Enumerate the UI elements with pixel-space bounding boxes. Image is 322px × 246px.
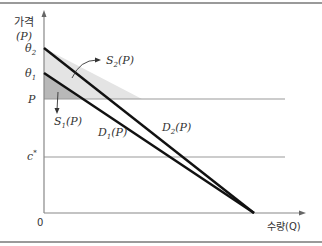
tick-p: P [27,93,36,106]
demand-line-d2 [44,48,254,213]
label-s2: S2(P) [106,54,134,69]
surplus-diagram: 가격 (P) θ2 θ1 P c* 0 수량(Q) S2(P) S1(P) D1… [0,0,322,246]
tick-theta2: θ2 [25,42,37,57]
x-axis-arrow-icon [299,211,306,216]
origin-label: 0 [37,217,43,228]
y-axis-arrow-icon [42,10,47,17]
label-s1: S1(P) [54,115,82,130]
s1-arrowhead-icon [55,108,60,114]
demand-line-d1 [44,73,254,213]
x-axis-title: 수량(Q) [267,221,301,232]
tick-c-star: c* [27,149,37,163]
y-axis-title: 가격 [14,16,34,29]
tick-theta1: θ1 [25,67,36,82]
s2-arrowhead-icon [95,58,101,63]
label-d2: D2(P) [161,121,191,136]
label-d1: D1(P) [97,126,127,141]
